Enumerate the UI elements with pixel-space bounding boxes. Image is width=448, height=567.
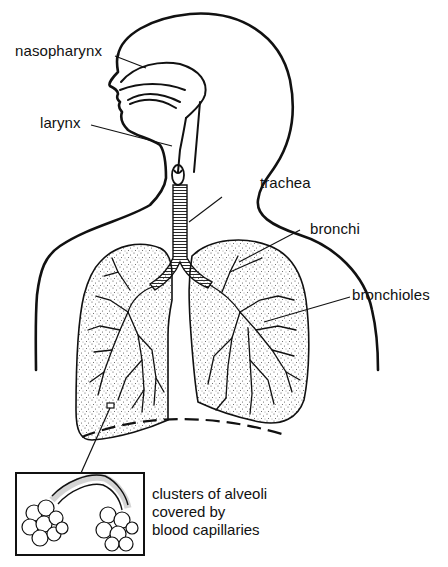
nasal-cavity bbox=[120, 63, 206, 172]
alveoli-caption: clusters of alveoli covered by blood cap… bbox=[152, 485, 267, 539]
label-bronchioles: bronchioles bbox=[352, 286, 430, 303]
alveoli-inset bbox=[16, 473, 144, 555]
label-trachea: trachea bbox=[260, 174, 311, 191]
right-lung bbox=[189, 240, 309, 423]
caption-line-3: blood capillaries bbox=[152, 521, 267, 539]
caption-line-2: covered by bbox=[152, 503, 267, 521]
respiratory-diagram bbox=[0, 0, 448, 567]
label-nasopharynx: nasopharynx bbox=[15, 42, 102, 59]
label-bronchi: bronchi bbox=[310, 220, 360, 237]
left-lung bbox=[76, 244, 172, 440]
label-larynx: larynx bbox=[40, 114, 81, 131]
alveoli-marker bbox=[107, 403, 114, 408]
caption-line-1: clusters of alveoli bbox=[152, 485, 267, 503]
